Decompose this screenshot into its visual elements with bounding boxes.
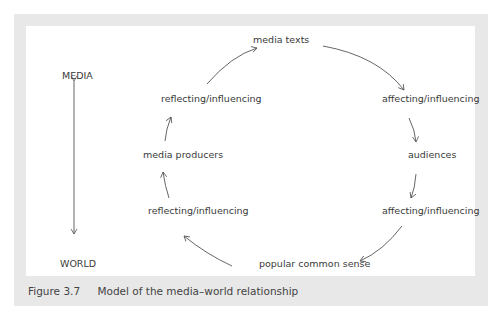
arc-arrow-to-reflecting-2 xyxy=(184,236,232,266)
figure-caption: Figure 3.7 Model of the media–world rela… xyxy=(28,285,298,297)
node-affecting-influencing-2: affecting/influencing xyxy=(382,205,480,216)
diagram-panel: MEDIA WORLD media texts affecting/influe… xyxy=(26,26,475,276)
arc-arrow-to-affecting-1 xyxy=(323,46,404,90)
figure-caption-text: Model of the media–world relationship xyxy=(97,285,298,297)
media-label: MEDIA xyxy=(62,70,93,81)
node-media-producers: media producers xyxy=(143,149,223,160)
arrow-to-reflecting-1 xyxy=(165,117,171,141)
figure-frame: MEDIA WORLD media texts affecting/influe… xyxy=(14,14,488,306)
arc-arrow-to-media-texts xyxy=(207,48,257,84)
node-audiences: audiences xyxy=(408,149,456,160)
node-media-texts: media texts xyxy=(253,34,309,45)
node-affecting-influencing-1: affecting/influencing xyxy=(382,93,480,104)
arc-arrow-to-popular-common-sense xyxy=(360,226,402,261)
figure-number: Figure 3.7 xyxy=(28,285,80,297)
node-reflecting-influencing-1: reflecting/influencing xyxy=(161,93,262,104)
arrow-to-affecting-2 xyxy=(411,174,416,198)
arrow-to-audiences xyxy=(409,118,416,142)
arrow-to-media-producers xyxy=(163,172,169,198)
node-popular-common-sense: popular common sense xyxy=(259,258,370,269)
node-reflecting-influencing-2: reflecting/influencing xyxy=(148,205,249,216)
world-label: WORLD xyxy=(60,258,96,269)
